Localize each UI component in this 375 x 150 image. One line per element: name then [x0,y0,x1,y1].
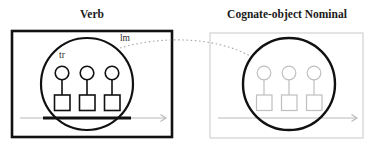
landmark-label: lm [120,33,131,43]
landmark-square [307,95,323,111]
landmark-square [80,95,96,111]
trajector-circle [307,66,321,80]
trajector-circle [282,66,296,80]
trajector-circle [257,66,271,80]
landmark-square [55,95,71,111]
cognitive-grammar-diagram: Verb tr lm Cognate-object [0,0,375,150]
trajector-circle [80,66,94,80]
landmark-square [282,95,298,111]
trajector-label: tr [59,50,66,60]
cognate-object-nominal-panel-title: Cognate-object Nominal [227,8,347,21]
trajector-circle [55,66,69,80]
landmark-square [105,95,121,111]
verb-panel-title: Verb [80,8,104,20]
trajector-circle [105,66,119,80]
landmark-square [257,95,273,111]
